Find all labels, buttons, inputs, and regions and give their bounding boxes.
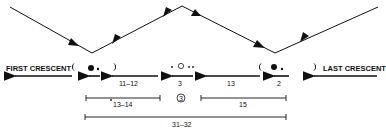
first-crescent-label: FIRST CRESCENT (6, 64, 71, 73)
crescent-icon (72, 63, 76, 71)
crescent-icon (112, 63, 116, 71)
interval-label-2: 2 (277, 80, 281, 87)
lunar-phase-diagram: FIRST CRESCENT LAST CRESCENT 11–12 3 13 … (0, 0, 386, 130)
new-moon-icon (271, 64, 277, 70)
dot-icon (110, 99, 112, 101)
span-label-31-32: 31–32 (172, 121, 192, 128)
interval-label-3: 3 (178, 80, 182, 87)
interval-label-11-12: 11–12 (119, 80, 138, 87)
interval-label-13: 13 (227, 80, 235, 87)
dot-icon (97, 68, 99, 70)
span-label-15: 15 (239, 101, 247, 108)
dot-icon (188, 66, 190, 68)
full-moon-icon (178, 63, 183, 68)
crescent-icon (259, 63, 263, 71)
span-label-13-14: 13–14 (113, 101, 133, 108)
crescent-icon (312, 63, 316, 71)
dot-icon (192, 66, 194, 68)
dot-icon (281, 68, 283, 70)
new-moon-icon (88, 65, 94, 71)
circled-marker-label: 3 (179, 95, 183, 102)
zigzag-arrowheads (68, 7, 309, 48)
dot-icon (171, 66, 173, 68)
last-crescent-label: LAST CRESCENT (323, 64, 386, 73)
